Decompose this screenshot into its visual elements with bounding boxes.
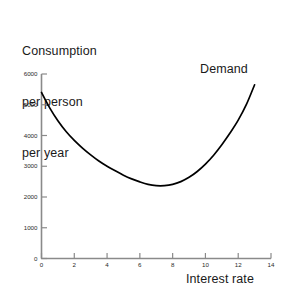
x-tick-label: 12: [231, 261, 245, 268]
x-tick-label: 10: [198, 261, 212, 268]
x-tick-label: 14: [264, 261, 278, 268]
x-tick-label: 2: [67, 261, 81, 268]
y-tick-label: 6000: [12, 70, 38, 77]
y-tick-label: 2000: [12, 193, 38, 200]
x-axis-title: Interest rate: [186, 272, 254, 286]
demand-curve: [42, 85, 255, 186]
x-tick-marks: [42, 253, 272, 259]
x-tick-label: 0: [35, 261, 49, 268]
y-tick-label: 5000: [12, 101, 38, 108]
x-tick-label: 6: [133, 261, 147, 268]
x-tick-label: 8: [166, 261, 180, 268]
plot-area: [0, 0, 294, 295]
chart-figure: Consumption per person per year Demand 0…: [0, 0, 294, 295]
y-tick-label: 3000: [12, 162, 38, 169]
axes: [41, 74, 271, 259]
y-tick-label: 4000: [12, 132, 38, 139]
x-tick-label: 4: [100, 261, 114, 268]
y-tick-label: 1000: [12, 224, 38, 231]
